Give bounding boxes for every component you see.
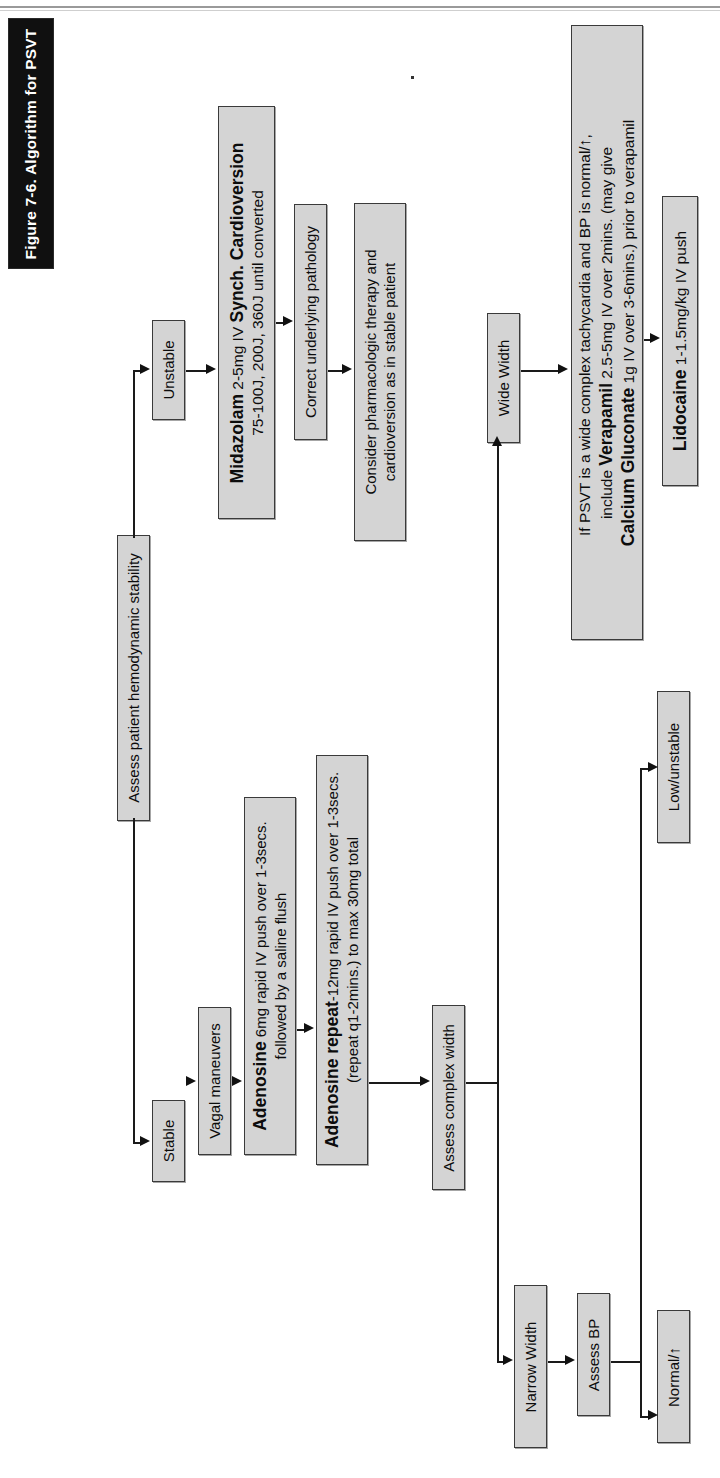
figure-title: Figure 7-6. Algorithm for PSVT — [22, 28, 40, 259]
verapamil-line2-pre: include — [598, 465, 615, 518]
verapamil-line1: If PSVT is a wide complex tachycardia an… — [576, 129, 593, 535]
node-unstable[interactable]: Unstable — [152, 320, 185, 420]
edge-wide-verapamil — [521, 370, 561, 372]
node-vagal[interactable]: Vagal maneuvers — [198, 1007, 231, 1155]
edge-to-narrow-stem — [497, 1082, 499, 1362]
node-vagal-label: Vagal maneuvers — [205, 1023, 224, 1139]
node-lidocaine[interactable]: Lidocaine 1-1.5mg/kg IV push — [662, 196, 698, 486]
edge-stability-trunk-upper — [133, 370, 135, 538]
node-consider-pharm[interactable]: Consider pharmacologic therapy andcardio… — [354, 203, 406, 541]
node-assess-stability-label: Assess patient hemodynamic stability — [124, 553, 143, 802]
node-midazolam[interactable]: Midazolam 2-5mg IV Synch. Cardioversion7… — [218, 106, 275, 519]
node-assess-width-label: Assess complex width — [439, 1024, 458, 1172]
arrow-to-unstable — [140, 364, 150, 374]
arrow-unstable-midazolam — [206, 364, 216, 374]
calcium-gluconate-dose: 1g IV over 3-6mins.) prior to verapamil — [620, 119, 637, 387]
midazolam-energy: 75-100J, 200J, 360J until converted — [249, 190, 266, 436]
page-rule-top-secondary — [0, 10, 720, 11]
node-unstable-label: Unstable — [159, 340, 178, 399]
adenosine-6-line2: followed by a saline flush — [273, 893, 290, 1060]
node-correct-pathology-label: Correct underlying pathology — [301, 226, 320, 418]
arrow-adenosine6-adenosine12 — [304, 1023, 314, 1033]
node-assess-bp-label: Assess BP — [584, 1318, 603, 1391]
edge-assessbp-out — [611, 1361, 641, 1363]
verapamil-dose: 2.5-5mg IV over 2mins. (may give — [598, 146, 615, 382]
node-stable-label: Stable — [159, 1120, 178, 1163]
edge-width-trunk — [497, 440, 499, 1084]
arrow-narrow-assessbp — [565, 1355, 575, 1365]
verapamil-drug-name: Verapamil — [596, 382, 616, 465]
arrow-to-narrow-width — [503, 1355, 513, 1365]
node-wide-width-label: Wide Width — [494, 340, 513, 417]
edge-assesswidth-out — [466, 1082, 498, 1084]
arrow-to-normal-bp — [648, 1410, 658, 1420]
midazolam-dose: 2-5mg IV — [228, 322, 245, 394]
arrow-vagal-adenosine6 — [232, 1076, 242, 1086]
node-consider-pharm-label: Consider pharmacologic therapy andcardio… — [361, 249, 399, 494]
node-correct-pathology[interactable]: Correct underlying pathology — [294, 204, 327, 440]
node-lidocaine-label: Lidocaine 1-1.5mg/kg IV push — [669, 231, 691, 451]
consider-pharm-line2: cardioversion as in stable patient — [381, 263, 398, 481]
arrow-verapamil-lidocaine — [650, 333, 660, 343]
node-assess-stability[interactable]: Assess patient hemodynamic stability — [117, 535, 150, 821]
node-assess-bp[interactable]: Assess BP — [577, 1293, 610, 1416]
arrow-adenosine12-assesswidth — [420, 1076, 430, 1086]
node-stable[interactable]: Stable — [152, 1100, 185, 1182]
adenosine-6-drug-name: Adenosine — [250, 1041, 270, 1130]
calcium-gluconate-name: Calcium Gluconate — [618, 387, 638, 546]
node-normal-bp-label: Normal/↑ — [664, 1346, 683, 1406]
scan-artifact-mark — [411, 76, 414, 79]
node-adenosine-12-label: Adenosine repeat-12mg rapid IV push over… — [321, 772, 363, 1148]
node-adenosine-12[interactable]: Adenosine repeat-12mg rapid IV push over… — [316, 755, 368, 1165]
node-verapamil[interactable]: If PSVT is a wide complex tachycardia an… — [571, 25, 643, 640]
arrow-to-lowunstable — [648, 762, 658, 772]
arrow-to-wide-width — [492, 436, 502, 446]
node-narrow-width-label: Narrow Width — [521, 1321, 540, 1412]
midazolam-drug-name: Midazolam — [226, 393, 246, 482]
figure-title-bar: Figure 7-6. Algorithm for PSVT — [8, 18, 54, 269]
edge-bp-trunk — [640, 768, 642, 1418]
lidocaine-dose: 1-1.5mg/kg IV push — [672, 231, 689, 370]
node-low-unstable-label: Low/unstable — [664, 723, 683, 811]
node-low-unstable[interactable]: Low/unstable — [657, 691, 690, 843]
consider-pharm-line1: Consider pharmacologic therapy and — [362, 249, 379, 494]
midazolam-procedure: Synch. Cardioversion — [226, 142, 246, 322]
node-assess-width[interactable]: Assess complex width — [432, 1005, 465, 1190]
edge-stability-trunk-lower — [133, 818, 135, 1143]
node-adenosine-6-label: Adenosine 6mg rapid IV push over 1-3secs… — [249, 821, 291, 1131]
node-verapamil-label: If PSVT is a wide complex tachycardia an… — [575, 119, 640, 545]
arrow-pathology-consider — [342, 364, 352, 374]
arrow-wide-verapamil — [558, 364, 568, 374]
node-normal-bp[interactable]: Normal/↑ — [657, 1310, 690, 1443]
lidocaine-drug-name: Lidocaine — [670, 370, 690, 452]
arrow-midazolam-pathology — [283, 316, 293, 326]
node-midazolam-label: Midazolam 2-5mg IV Synch. Cardioversion7… — [225, 142, 267, 483]
edge-unstable-midazolam — [186, 370, 208, 372]
arrow-stable-vagal — [186, 1076, 196, 1086]
arrow-to-stable — [140, 1136, 150, 1146]
adenosine-12-dose: -12mg rapid IV push over 1-3secs. — [324, 772, 341, 1001]
adenosine-12-drug-name: Adenosine repeat — [322, 1001, 342, 1148]
edge-adenosine12-assesswidth — [369, 1082, 423, 1084]
node-adenosine-6[interactable]: Adenosine 6mg rapid IV push over 1-3secs… — [244, 797, 296, 1155]
node-narrow-width[interactable]: Narrow Width — [514, 1285, 547, 1448]
adenosine-6-dose: 6mg rapid IV push over 1-3secs. — [252, 821, 269, 1041]
adenosine-12-line2: (repeat q1-2mins.) to max 30mg total — [345, 837, 362, 1083]
node-wide-width[interactable]: Wide Width — [487, 313, 520, 443]
page-rule-top — [0, 6, 720, 8]
